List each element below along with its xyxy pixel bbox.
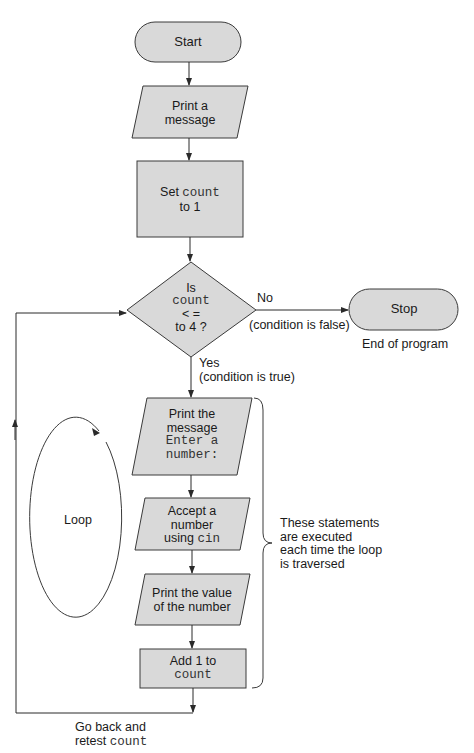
end-of-program-caption: End of program xyxy=(362,337,448,351)
print-message-line2: message xyxy=(165,113,216,127)
statements-brace xyxy=(252,398,272,688)
no-label: No xyxy=(257,291,273,305)
brace-text-line1: These statements xyxy=(280,517,382,531)
yes-label: Yes xyxy=(199,356,219,370)
print-prompt-code1: Enter a xyxy=(166,435,219,449)
accept-number-line3: using cin xyxy=(164,532,220,547)
decision-label: Is count < = to 4 ? xyxy=(172,282,210,334)
add-one-line1: Add 1 to xyxy=(170,655,217,669)
brace-annotation: These statements are executed each time … xyxy=(280,517,382,571)
stop-label: Stop xyxy=(391,302,418,316)
print-value-line2: of the number xyxy=(152,601,232,615)
loop-label: Loop xyxy=(64,513,92,527)
loop-back-label: Go back and retest count xyxy=(75,720,147,749)
yes-condition-label: (condition is true) xyxy=(199,370,295,384)
brace-text-line4: is traversed xyxy=(280,558,382,572)
print-prompt-line2: message xyxy=(166,422,219,436)
no-condition-label: (condition is false) xyxy=(249,318,350,332)
set-count-line1: Set count xyxy=(160,185,220,200)
print-prompt-label: Print the message Enter a number: xyxy=(166,408,219,462)
print-message-line1: Print a xyxy=(165,99,216,113)
print-value-label: Print the value of the number xyxy=(152,587,232,614)
brace-text-line3: each time the loop xyxy=(280,544,382,558)
start-label: Start xyxy=(174,35,201,49)
add-one-label: Add 1 to count xyxy=(170,655,217,682)
accept-number-line2: number xyxy=(164,519,220,533)
print-value-line1: Print the value xyxy=(152,587,232,601)
print-message-label: Print a message xyxy=(165,99,216,127)
set-count-label: Set count to 1 xyxy=(160,185,220,214)
set-count-line2: to 1 xyxy=(160,200,220,214)
accept-number-line1: Accept a xyxy=(164,505,220,519)
add-one-code: count xyxy=(170,669,217,683)
accept-number-label: Accept a number using cin xyxy=(164,505,220,547)
print-prompt-line1: Print the xyxy=(166,408,219,422)
print-prompt-code2: number: xyxy=(166,449,219,463)
brace-text-line2: are executed xyxy=(280,531,382,545)
loop-arrowhead-icon xyxy=(92,428,100,436)
loop-back-line2: retest count xyxy=(75,734,147,749)
loop-back-line1: Go back and xyxy=(75,720,147,734)
decision-line4: to 4 ? xyxy=(172,321,210,334)
